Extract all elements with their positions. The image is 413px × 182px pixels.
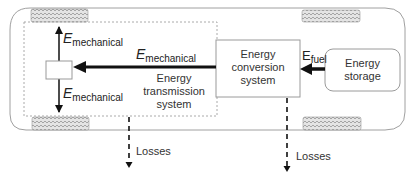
wheel-rear-left <box>32 117 89 130</box>
wheel-hub-box <box>46 61 72 79</box>
label-e-mechanical-up: Emechanical <box>63 30 123 48</box>
line: transmission <box>134 85 214 98</box>
line: Energy <box>216 48 300 61</box>
line: conversion <box>216 61 300 74</box>
losses-arrow-transmission-head <box>126 162 133 168</box>
subscript: mechanical <box>72 92 123 103</box>
e-symbol: E <box>63 30 72 46</box>
e-symbol: E <box>302 48 311 63</box>
label-losses-transmission: Losses <box>136 145 171 158</box>
losses-arrow-conversion-head <box>284 166 291 172</box>
node-energy-storage-label: Energy storage <box>325 57 400 83</box>
label-e-fuel: Efuel <box>302 48 327 65</box>
node-energy-conversion-label: Energy conversion system <box>216 48 300 87</box>
wheel-rear-right <box>303 117 361 130</box>
line: system <box>216 74 300 87</box>
label-e-mechanical-main: Emechanical <box>136 46 196 64</box>
line: Energy <box>325 57 400 70</box>
line: system <box>134 98 214 111</box>
arrow-mechanical-main-head <box>73 61 86 73</box>
line: Energy <box>134 72 214 85</box>
wheel-front-right <box>302 10 360 22</box>
label-e-mechanical-down: Emechanical <box>63 85 123 103</box>
e-symbol: E <box>63 85 72 101</box>
subscript: mechanical <box>72 37 123 48</box>
line: storage <box>325 70 400 83</box>
e-symbol: E <box>136 46 145 62</box>
subscript: mechanical <box>145 53 196 64</box>
label-losses-conversion: Losses <box>296 150 331 163</box>
node-energy-transmission-label: Energy transmission system <box>134 72 214 111</box>
wheel-front-left <box>31 9 88 22</box>
